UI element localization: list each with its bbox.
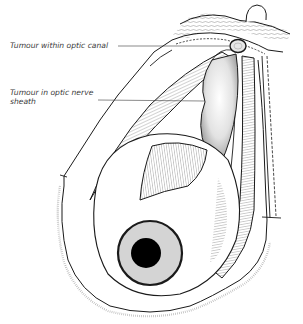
label-tumour-in-optic-nerve-sheath: Tumour in optic nerve sheath [10, 88, 100, 106]
canal-tumour [230, 40, 246, 53]
globe [94, 134, 240, 296]
label-tumour-within-optic-canal: Tumour within optic canal [10, 41, 108, 50]
pupil [131, 238, 161, 268]
